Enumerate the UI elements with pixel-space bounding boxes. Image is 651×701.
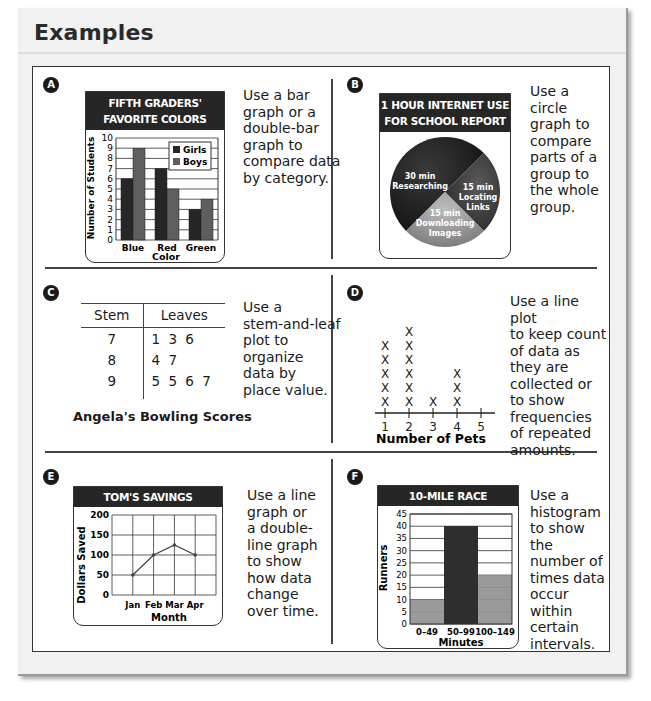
svg-text:X: X <box>453 381 461 395</box>
svg-text:Boys: Boys <box>183 157 207 167</box>
stem-header: Stem <box>81 304 143 328</box>
svg-text:5: 5 <box>402 607 407 617</box>
description-e: Use a line graph or a double- line graph… <box>247 487 319 619</box>
svg-text:X: X <box>405 367 413 381</box>
histogram-card: 10-MILE RACE Runners 051015202530354045 … <box>377 485 519 649</box>
svg-text:150: 150 <box>90 530 109 540</box>
description-c: Use a stem-and-leaf plot to organize dat… <box>243 299 341 398</box>
circle-graph-title: 1 HOUR INTERNET USE FOR SCHOOL REPORT <box>380 94 510 132</box>
svg-text:Number of Pets: Number of Pets <box>376 431 486 446</box>
svg-text:Links: Links <box>466 203 490 212</box>
svg-text:7: 7 <box>107 164 113 174</box>
svg-text:Feb: Feb <box>145 600 162 610</box>
svg-text:Dollars Saved: Dollars Saved <box>76 526 87 604</box>
line-graph-card: TOM'S SAVINGS Dollars Saved 050100150200… <box>73 486 223 626</box>
svg-text:Girls: Girls <box>183 145 206 155</box>
svg-text:25: 25 <box>396 558 407 568</box>
svg-text:Blue: Blue <box>122 243 144 253</box>
circle-graph-card: 1 HOUR INTERNET USE FOR SCHOOL REPORT <box>379 93 511 259</box>
title-divider <box>18 52 626 54</box>
table-row: 8 4 7 <box>81 349 225 370</box>
badge-c-icon: C <box>43 285 59 301</box>
leaves-header: Leaves <box>143 304 225 328</box>
svg-text:X: X <box>381 339 389 353</box>
svg-text:30 min: 30 min <box>405 172 436 181</box>
svg-text:X: X <box>453 395 461 409</box>
badge-b-icon: B <box>347 77 363 93</box>
svg-text:Runners: Runners <box>378 545 389 592</box>
bar-graph-title: FIFTH GRADERS' FAVORITE COLORS <box>86 92 224 130</box>
table-row: 9 5 5 6 7 <box>81 370 225 399</box>
page-title: Examples <box>34 20 154 45</box>
examples-box: A FIFTH GRADERS' FAVORITE COLORS Number … <box>32 66 610 652</box>
svg-text:Color: Color <box>152 251 180 262</box>
badge-d-icon: D <box>347 285 363 301</box>
description-b: Use a circle graph to compare parts of a… <box>530 83 609 215</box>
svg-text:0: 0 <box>103 590 109 600</box>
svg-text:1: 1 <box>107 225 113 235</box>
svg-text:Green: Green <box>186 243 216 253</box>
description-f: Use a histogram to show the number of ti… <box>530 487 609 652</box>
svg-text:X: X <box>405 381 413 395</box>
svg-text:X: X <box>381 381 389 395</box>
svg-text:100: 100 <box>90 550 109 560</box>
svg-text:10: 10 <box>102 133 114 143</box>
svg-text:200: 200 <box>90 510 109 520</box>
svg-text:20: 20 <box>396 570 407 580</box>
svg-text:15 min: 15 min <box>463 183 494 192</box>
stem-leaf-caption: Angela's Bowling Scores <box>73 409 252 424</box>
svg-text:X: X <box>405 325 413 339</box>
table-row: 7 1 3 6 <box>81 328 225 350</box>
badge-a-icon: A <box>43 77 59 93</box>
svg-text:30: 30 <box>396 546 407 556</box>
svg-text:5: 5 <box>107 184 113 194</box>
svg-text:Apr: Apr <box>187 600 205 610</box>
svg-text:45: 45 <box>396 509 407 519</box>
line-graph: Dollars Saved 050100150200 JanFebMarApr … <box>74 507 222 625</box>
col-divider-3 <box>331 459 333 644</box>
svg-text:Mar: Mar <box>165 600 184 610</box>
svg-text:10: 10 <box>396 595 407 605</box>
line-graph-title: TOM'S SAVINGS <box>74 487 222 507</box>
line-plot: XXXXXXXXXXXXXXX 12345 Number of Pets <box>367 299 507 447</box>
svg-text:Downloading: Downloading <box>416 219 475 228</box>
textbook-page: Examples A FIFTH GRADERS' FAVORITE COLOR… <box>18 8 628 676</box>
svg-text:0: 0 <box>402 619 407 629</box>
circle-graph: 30 min Researching 15 min Locating Links… <box>380 132 510 259</box>
svg-text:X: X <box>381 367 389 381</box>
svg-text:0–49: 0–49 <box>416 627 438 637</box>
svg-text:Locating: Locating <box>459 193 498 202</box>
svg-text:Minutes: Minutes <box>438 637 483 648</box>
description-a: Use a bar graph or a double-bar graph to… <box>243 87 340 186</box>
badge-e-icon: E <box>43 469 59 485</box>
svg-text:9: 9 <box>107 143 113 153</box>
svg-text:3: 3 <box>107 204 113 214</box>
bar-graph-legend: Girls Boys <box>169 142 211 170</box>
svg-text:6: 6 <box>107 174 113 184</box>
histogram-title: 10-MILE RACE <box>378 486 518 506</box>
svg-text:8: 8 <box>107 153 113 163</box>
svg-text:X: X <box>453 367 461 381</box>
svg-text:15: 15 <box>396 582 407 592</box>
svg-text:2: 2 <box>107 215 113 225</box>
histogram: Runners 051015202530354045 0–4950–99100–… <box>378 506 518 649</box>
bar-graph: Number of Students 012345678910 BlueRedG… <box>86 130 224 263</box>
description-d: Use a line plot to keep count of data as… <box>510 293 609 458</box>
svg-text:X: X <box>405 353 413 367</box>
svg-text:X: X <box>429 395 437 409</box>
svg-text:50: 50 <box>96 570 109 580</box>
svg-text:4: 4 <box>107 194 113 204</box>
svg-text:X: X <box>405 395 413 409</box>
svg-text:15 min: 15 min <box>430 209 461 218</box>
svg-text:Researching: Researching <box>392 182 448 191</box>
svg-text:Jan: Jan <box>124 600 140 610</box>
svg-text:X: X <box>381 353 389 367</box>
stem-leaf-table: Stem Leaves 7 1 3 6 8 4 7 9 5 5 6 7 <box>81 303 225 399</box>
svg-text:Number of Students: Number of Students <box>86 137 96 239</box>
bar-graph-card: FIFTH GRADERS' FAVORITE COLORS Number of… <box>85 91 225 263</box>
badge-f-icon: F <box>347 469 363 485</box>
svg-text:Month: Month <box>151 612 187 623</box>
svg-text:100–149: 100–149 <box>475 627 515 637</box>
svg-text:40: 40 <box>396 521 407 531</box>
svg-text:Images: Images <box>429 229 462 238</box>
